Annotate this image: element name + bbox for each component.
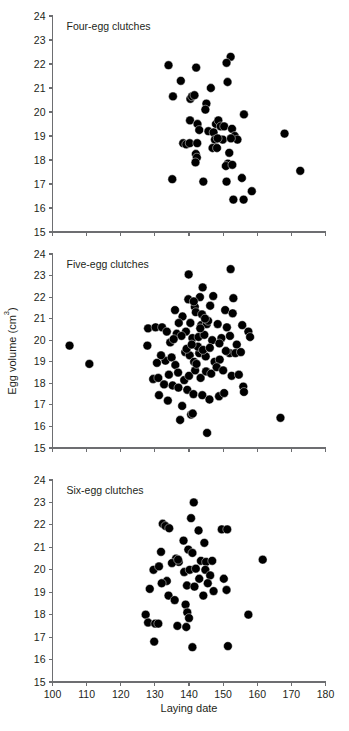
data-point (246, 333, 255, 342)
data-point (219, 574, 228, 583)
data-point (206, 84, 215, 93)
data-point (165, 524, 174, 533)
data-point (188, 643, 197, 652)
data-point (237, 174, 246, 183)
data-point (174, 319, 183, 328)
y-tick-label-15: 15 (34, 676, 46, 688)
data-point (203, 429, 212, 438)
data-point (157, 579, 166, 588)
data-point (224, 642, 233, 651)
data-point (228, 160, 237, 169)
data-point (276, 413, 285, 422)
data-point (258, 555, 267, 564)
data-point (160, 380, 169, 389)
data-point (188, 549, 197, 558)
data-point (155, 562, 164, 571)
data-point (209, 292, 218, 301)
data-point (194, 526, 203, 535)
y-tick-label-18: 18 (34, 608, 46, 620)
data-point (155, 391, 164, 400)
data-point (145, 584, 154, 593)
data-point (240, 110, 249, 119)
data-point (229, 294, 238, 303)
data-point (206, 571, 215, 580)
data-point (195, 126, 204, 135)
data-point (189, 498, 198, 507)
x-tick-label-160: 160 (248, 688, 266, 700)
panel-2: 15161718192021222324Five-egg clutches (34, 248, 326, 454)
data-point (168, 175, 177, 184)
data-point (177, 332, 186, 341)
data-point (234, 370, 243, 379)
data-point (171, 306, 180, 315)
y-tick-label-21: 21 (34, 312, 46, 324)
y-tick-label-24: 24 (34, 248, 46, 260)
data-point (173, 621, 182, 630)
data-point (222, 323, 231, 332)
panel-3: 1516171819202122232410011012013014015016… (34, 474, 335, 700)
data-point (170, 596, 179, 605)
scatter-figure: 15161718192021222324Four-egg clutches151… (0, 0, 349, 731)
data-point (182, 623, 191, 632)
panel-title-1: Four-egg clutches (67, 20, 151, 32)
panel-title-3: Six-egg clutches (67, 484, 144, 496)
data-point (221, 347, 230, 356)
y-tick-label-22: 22 (34, 291, 46, 303)
data-point (280, 129, 289, 138)
data-point (162, 327, 171, 336)
data-point (213, 134, 222, 143)
x-tick-label-100: 100 (44, 688, 62, 700)
x-tick-label-110: 110 (78, 688, 95, 700)
data-point (205, 343, 214, 352)
data-point (187, 514, 196, 523)
data-point (199, 177, 208, 186)
panel-1: 15161718192021222324Four-egg clutches (34, 10, 326, 238)
data-point (296, 166, 305, 175)
data-point (164, 370, 173, 379)
y-tick-label-21: 21 (34, 541, 46, 553)
x-tick-label-130: 130 (146, 688, 164, 700)
data-point (201, 314, 210, 323)
y-tick-label-17: 17 (34, 631, 46, 643)
data-point (208, 556, 217, 565)
x-axis-title: Laying date (161, 702, 218, 714)
x-tick-label-150: 150 (214, 688, 232, 700)
data-point (222, 58, 231, 67)
x-tick-label-170: 170 (283, 688, 301, 700)
y-tick-label-24: 24 (34, 10, 46, 22)
data-point (190, 582, 199, 591)
data-point (236, 348, 245, 357)
data-point (176, 76, 185, 85)
y-tick-label-22: 22 (34, 518, 46, 530)
data-point (222, 586, 231, 595)
figure-container: 15161718192021222324Four-egg clutches151… (0, 0, 349, 731)
x-tick-label-120: 120 (112, 688, 130, 700)
data-point (193, 139, 202, 148)
data-point (174, 555, 183, 564)
data-point (225, 148, 234, 157)
data-point (205, 395, 214, 404)
y-tick-label-16: 16 (34, 202, 46, 214)
data-point (189, 297, 198, 306)
data-point (169, 92, 178, 101)
data-point (150, 637, 159, 646)
data-point (213, 320, 222, 329)
data-point (223, 525, 232, 534)
data-point (196, 324, 205, 333)
data-point (164, 61, 173, 70)
data-point (153, 358, 162, 367)
data-point (192, 63, 201, 72)
y-tick-label-18: 18 (34, 154, 46, 166)
y-tick-label-23: 23 (34, 269, 46, 281)
y-tick-label-23: 23 (34, 34, 46, 46)
data-point (229, 195, 238, 204)
y-tick-label-16: 16 (34, 653, 46, 665)
y-tick-label-19: 19 (34, 586, 46, 598)
y-axis-title: Egg volume (cm3) (1, 307, 18, 394)
data-point (174, 383, 183, 392)
data-points-2 (65, 265, 285, 438)
data-point (191, 564, 200, 573)
data-points-1 (164, 52, 305, 204)
data-point (143, 341, 152, 350)
y-tick-label-20: 20 (34, 106, 46, 118)
